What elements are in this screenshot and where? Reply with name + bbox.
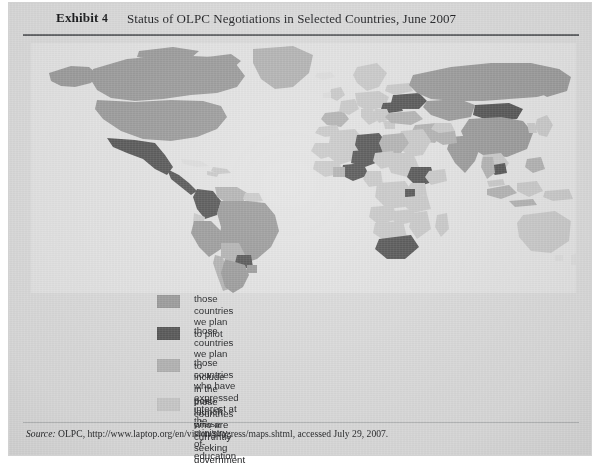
- legend-swatch-ministry-interest: [157, 359, 180, 372]
- footer-divider: [23, 422, 579, 423]
- world-map-svg: [31, 43, 576, 293]
- country-tasmania: [555, 255, 563, 261]
- exhibit-label: Exhibit 4: [56, 10, 108, 26]
- legend-swatch-seeking-support: [157, 398, 180, 411]
- source-note: Source: OLPC, http://www.laptop.org/en/v…: [26, 428, 388, 439]
- country-ireland: [323, 92, 331, 98]
- exhibit-label-text: Exhibit: [56, 10, 98, 25]
- country-rwanda: [405, 189, 415, 197]
- source-prefix: Source:: [26, 428, 56, 439]
- country-uruguay: [247, 265, 257, 273]
- legend-swatch-pilot: [157, 295, 180, 308]
- source-text: OLPC, http://www.laptop.org/en/vision/pr…: [56, 428, 389, 439]
- country-ghana: [333, 167, 345, 177]
- world-map: [31, 43, 576, 293]
- header-divider: [23, 34, 579, 36]
- exhibit-page: Exhibit 4 Status of OLPC Negotiations in…: [9, 3, 591, 455]
- exhibit-title: Status of OLPC Negotiations in Selected …: [127, 11, 456, 27]
- exhibit-number: 4: [102, 12, 108, 25]
- exhibit-header: Exhibit 4 Status of OLPC Negotiations in…: [9, 10, 591, 32]
- legend-swatch-post-launch: [157, 327, 180, 340]
